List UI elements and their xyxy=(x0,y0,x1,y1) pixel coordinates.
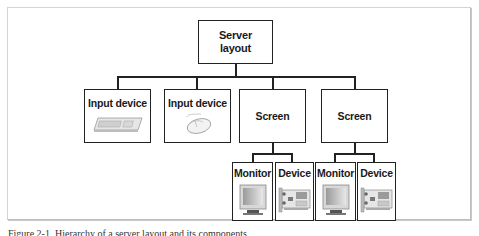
node-monitor-2: Monitor xyxy=(315,162,356,221)
figure-caption: Figure 2-1. Hierarchy of a server layout… xyxy=(8,228,247,236)
keyboard-icon xyxy=(92,115,144,135)
node-label: Device xyxy=(358,167,395,179)
node-device-2: Device xyxy=(357,162,396,221)
graphics-card-icon xyxy=(278,184,312,214)
node-label: Monitor xyxy=(316,167,355,179)
node-screen-1: Screen xyxy=(239,89,306,143)
node-label: Input device xyxy=(85,97,150,109)
node-screen-2: Screen xyxy=(321,89,388,143)
node-label: layout xyxy=(219,42,252,55)
node-device-1: Device xyxy=(275,162,314,221)
node-monitor-1: Monitor xyxy=(232,162,273,221)
connector-bus xyxy=(334,153,374,155)
node-input-device-keyboard: Input device xyxy=(84,89,151,143)
node-label: Monitor xyxy=(233,167,272,179)
node-label: Device xyxy=(276,167,313,179)
connector xyxy=(117,76,119,90)
node-server-layout: Server layout xyxy=(198,20,273,64)
connector xyxy=(235,63,237,77)
node-label: Input device xyxy=(165,97,230,109)
connector-bus xyxy=(252,153,292,155)
connector xyxy=(354,76,356,90)
graphics-card-icon xyxy=(360,184,394,214)
node-label: Screen xyxy=(338,110,372,122)
connector xyxy=(272,76,274,90)
node-label: Server xyxy=(219,29,252,42)
mouse-icon xyxy=(183,113,213,135)
connector xyxy=(196,76,198,90)
monitor-icon xyxy=(322,184,350,216)
monitor-icon xyxy=(239,184,267,216)
connector-bus xyxy=(117,76,355,78)
node-label: Screen xyxy=(256,110,290,122)
node-input-device-mouse: Input device xyxy=(164,89,231,143)
